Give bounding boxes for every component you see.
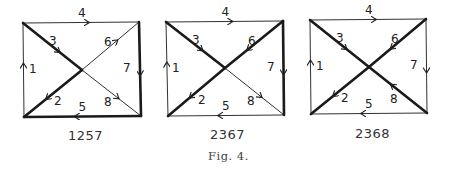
edge-5 (311, 113, 427, 114)
edge-label-4: 4 (222, 5, 230, 19)
edge-label-8: 8 (247, 94, 255, 108)
edge-label-7: 7 (123, 61, 131, 75)
diagram-label-1257: 1257 (68, 128, 103, 143)
figure-caption: Fig. 4. (208, 149, 249, 163)
edge-2 (24, 70, 82, 117)
diagram-2367: 12345678 (166, 5, 284, 116)
edge-label-5: 5 (222, 99, 230, 113)
edge-label-6: 6 (248, 34, 256, 48)
edge-label-8: 8 (390, 92, 398, 106)
edge-label-8: 8 (104, 95, 112, 109)
edge-4 (310, 19, 426, 20)
edge-7 (283, 21, 284, 115)
edge-7 (426, 19, 427, 113)
edge-label-7: 7 (410, 58, 418, 72)
edge-label-6: 6 (104, 35, 112, 49)
edge-label-5: 5 (79, 100, 87, 114)
edge-1 (310, 20, 311, 114)
edge-7 (139, 22, 141, 116)
edge-label-1: 1 (29, 62, 37, 76)
edge-1 (166, 22, 168, 116)
edge-label-4: 4 (365, 3, 373, 17)
edge-label-2: 2 (54, 94, 62, 108)
edge-5 (24, 116, 141, 117)
edge-label-4: 4 (78, 6, 86, 20)
edge-label-3: 3 (336, 31, 344, 45)
edge-label-1: 1 (316, 59, 324, 73)
edge-2 (311, 67, 369, 114)
edge-8 (369, 67, 427, 113)
edge-2 (168, 68, 225, 116)
diagram-1257: 12345678 (23, 6, 141, 117)
edge-label-3: 3 (49, 34, 57, 48)
edge-label-6: 6 (391, 32, 399, 46)
edge-label-1: 1 (172, 61, 180, 75)
edge-label-5: 5 (365, 97, 373, 111)
edge-4 (166, 21, 283, 22)
figure-4-diagrams: 123456781234567812345678 (0, 0, 449, 170)
edge-label-7: 7 (267, 60, 275, 74)
edge-1 (23, 23, 24, 117)
edge-8 (82, 70, 141, 116)
edge-4 (23, 22, 139, 23)
edge-label-2: 2 (198, 93, 206, 107)
edge-label-3: 3 (192, 33, 200, 47)
edge-5 (168, 115, 284, 116)
diagram-2368: 12345678 (310, 3, 427, 114)
edge-label-2: 2 (341, 91, 349, 105)
diagram-label-2368: 2368 (355, 126, 390, 141)
diagram-label-2367: 2367 (210, 127, 245, 142)
